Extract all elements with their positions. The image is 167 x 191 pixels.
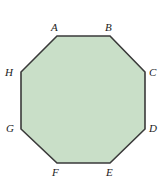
vertex-label-c: C: [149, 67, 156, 78]
vertex-label-d: D: [149, 123, 157, 134]
octagon-figure: A B C D E F G H: [0, 0, 167, 191]
octagon-drawing: [0, 0, 167, 191]
vertex-label-e: E: [106, 167, 113, 178]
vertex-label-g: G: [6, 123, 14, 134]
vertex-label-f: F: [52, 167, 59, 178]
vertex-label-h: H: [5, 67, 13, 78]
vertex-label-a: A: [51, 22, 58, 33]
octagon-polygon: [21, 36, 145, 163]
vertex-label-b: B: [105, 22, 112, 33]
